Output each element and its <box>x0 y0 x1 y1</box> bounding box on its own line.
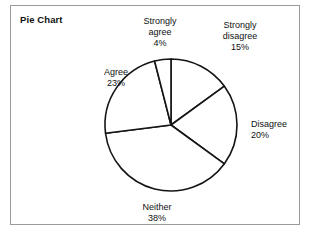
pie-value-strongly-disagree: 15% <box>203 42 277 53</box>
pie-label-neither: Neither 38% <box>124 202 190 224</box>
chart-frame: Pie Chart Strongly agree 4% Strongly dis… <box>10 5 300 225</box>
pie-label-agree: Agree 23% <box>89 67 143 89</box>
pie-label-disagree-line1: Disagree <box>251 119 312 130</box>
pie-label-neither-line1: Neither <box>124 202 190 213</box>
pie-label-strongly-disagree: Strongly disagree 15% <box>203 20 277 53</box>
pie-value-strongly-agree: 4% <box>129 38 191 49</box>
pie-label-strongly-disagree-line1: Strongly <box>203 20 277 31</box>
pie-label-strongly-agree-line1: Strongly <box>129 16 191 27</box>
pie-value-disagree: 20% <box>251 130 312 141</box>
pie-label-strongly-agree: Strongly agree 4% <box>129 16 191 49</box>
pie-label-disagree: Disagree 20% <box>251 119 312 141</box>
pie-value-neither: 38% <box>124 213 190 224</box>
pie-label-agree-line1: Agree <box>89 67 143 78</box>
pie-value-agree: 23% <box>89 78 143 89</box>
pie-label-strongly-agree-line2: agree <box>129 27 191 38</box>
pie-label-strongly-disagree-line2: disagree <box>203 31 277 42</box>
